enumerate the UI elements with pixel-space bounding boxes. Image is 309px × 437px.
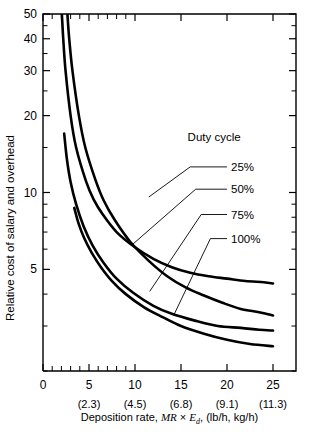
y-axis-title: Relative cost of salary and overhead [4, 135, 16, 321]
legend: 25%50%75%100%Duty cycle [188, 131, 261, 245]
deposition-rate-cost-chart: Relative cost of salary and overhead 510… [0, 0, 309, 437]
x-tick-label: 25 [266, 378, 280, 392]
x-tick-label-secondary: (2.3) [78, 398, 101, 410]
chart-figure: Relative cost of salary and overhead 510… [0, 0, 309, 437]
leader-line-25pct [149, 167, 227, 197]
curve-100pct [74, 208, 273, 346]
y-tick-label: 40 [24, 32, 38, 46]
y-tick-label: 5 [30, 262, 37, 276]
leader-line-75pct [150, 215, 227, 292]
legend-label-50pct: 50% [231, 183, 254, 195]
legend-label-25pct: 25% [231, 161, 254, 173]
x-title-math-mr: MR [160, 411, 177, 423]
x-tick-label: 15 [174, 378, 188, 392]
annotation-leaders [131, 167, 227, 316]
x-tick-label-secondary: (6.8) [170, 398, 193, 410]
x-tick-label: 10 [128, 378, 142, 392]
x-tick-label: 20 [220, 378, 234, 392]
x-tick-label: 5 [86, 378, 93, 392]
data-curves [62, 14, 273, 346]
legend-label-100pct: 100% [231, 233, 260, 245]
axis-ticks [43, 14, 296, 371]
y-tick-label: 50 [24, 7, 38, 21]
x-axis-title: Deposition rate, MR × Ed, (lb/h, kg/h) [81, 411, 258, 426]
x-title-lead: Deposition rate, [81, 411, 161, 423]
x-tick-label-secondary: (9.1) [216, 398, 239, 410]
x-axis-title-text: Deposition rate, MR × Ed, (lb/h, kg/h) [81, 411, 258, 426]
plot-border [43, 14, 296, 371]
x-tick-label-secondary: (4.5) [124, 398, 147, 410]
plot-frame [43, 14, 296, 371]
x-tick-label: 0 [40, 378, 47, 392]
x-title-times: × [177, 411, 190, 423]
y-tick-label: 20 [24, 109, 38, 123]
legend-title: Duty cycle [188, 131, 241, 143]
x-title-tail: , (lb/h, kg/h) [200, 411, 258, 423]
y-tick-label: 10 [24, 186, 38, 200]
leader-line-50pct [131, 189, 227, 245]
y-tick-label: 30 [24, 64, 38, 78]
x-tick-label-secondary: (11.3) [259, 398, 287, 410]
legend-label-75pct: 75% [231, 209, 254, 221]
